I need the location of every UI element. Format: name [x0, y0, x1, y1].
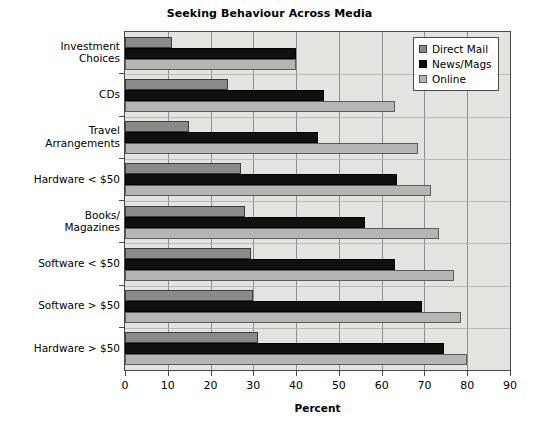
- bar-news-mags-7: [125, 343, 444, 354]
- legend-item-online[interactable]: Online: [419, 71, 492, 86]
- x-axis-tick-label-8: 80: [447, 379, 487, 392]
- x-axis-tick-label-0: 0: [105, 379, 145, 392]
- x-axis-tick-8: [467, 371, 468, 376]
- y-axis-tick-7: [119, 327, 124, 328]
- gridline-horizontal: [125, 159, 510, 160]
- bar-online-1: [125, 101, 395, 112]
- bar-direct-mail-0: [125, 37, 172, 48]
- legend-swatch-icon: [419, 60, 427, 68]
- bar-news-mags-5: [125, 259, 395, 270]
- x-axis-title: Percent: [124, 402, 511, 414]
- y-axis-label-0: Investment Choices: [2, 40, 120, 65]
- y-axis-label-3: Hardware < $50: [2, 173, 120, 186]
- bar-news-mags-1: [125, 90, 324, 101]
- y-axis-tick-4: [119, 200, 124, 201]
- x-axis-tick-label-2: 20: [191, 379, 231, 392]
- legend-item-news-mags[interactable]: News/Mags: [419, 56, 492, 71]
- x-axis-tick-label-5: 50: [319, 379, 359, 392]
- y-axis-tick-2: [119, 116, 124, 117]
- bar-online-0: [125, 59, 296, 70]
- legend-label: Direct Mail: [432, 43, 488, 55]
- x-axis-tick-label-7: 70: [404, 379, 444, 392]
- gridline-horizontal: [125, 117, 510, 118]
- bar-direct-mail-5: [125, 248, 251, 259]
- x-axis-tick-9: [510, 371, 511, 376]
- x-axis-tick-1: [168, 371, 169, 376]
- bar-news-mags-0: [125, 48, 296, 59]
- y-axis-label-4: Books/ Magazines: [2, 209, 120, 234]
- bar-news-mags-2: [125, 132, 318, 143]
- y-axis-tick-1: [119, 73, 124, 74]
- y-axis-label-2: Travel Arrangements: [2, 124, 120, 149]
- legend-label: News/Mags: [432, 58, 492, 70]
- gridline-horizontal: [125, 243, 510, 244]
- chart-container: Seeking Behaviour Across Media Investmen…: [0, 0, 539, 437]
- bar-direct-mail-7: [125, 332, 258, 343]
- bar-news-mags-3: [125, 174, 397, 185]
- x-axis-tick-label-4: 40: [276, 379, 316, 392]
- y-axis-label-6: Software > $50: [2, 299, 120, 312]
- x-axis-tick-6: [382, 371, 383, 376]
- chart-legend: Direct MailNews/MagsOnline: [413, 37, 499, 91]
- bar-direct-mail-4: [125, 206, 245, 217]
- bar-online-2: [125, 143, 418, 154]
- x-axis-tick-label-6: 60: [362, 379, 402, 392]
- bar-direct-mail-1: [125, 79, 228, 90]
- x-axis-tick-5: [339, 371, 340, 376]
- y-axis-label-7: Hardware > $50: [2, 342, 120, 355]
- bar-online-6: [125, 312, 461, 323]
- gridline-horizontal: [125, 328, 510, 329]
- bar-direct-mail-2: [125, 121, 189, 132]
- legend-swatch-icon: [419, 75, 427, 83]
- x-axis-tick-label-1: 10: [148, 379, 188, 392]
- gridline-vertical: [510, 32, 511, 370]
- y-axis-tick-5: [119, 242, 124, 243]
- y-axis-category-labels: Investment ChoicesCDsTravel Arrangements…: [0, 31, 120, 371]
- y-axis-label-5: Software < $50: [2, 257, 120, 270]
- bar-online-3: [125, 185, 431, 196]
- x-axis-tick-label-9: 90: [490, 379, 530, 392]
- x-axis-tick-0: [125, 371, 126, 376]
- gridline-horizontal: [125, 201, 510, 202]
- y-axis-label-1: CDs: [2, 88, 120, 101]
- chart-title: Seeking Behaviour Across Media: [0, 7, 539, 20]
- legend-item-direct-mail[interactable]: Direct Mail: [419, 41, 492, 56]
- y-axis-tick-3: [119, 158, 124, 159]
- bar-news-mags-6: [125, 301, 422, 312]
- legend-swatch-icon: [419, 45, 427, 53]
- bar-direct-mail-3: [125, 163, 241, 174]
- bar-online-5: [125, 270, 454, 281]
- x-axis-tick-2: [211, 371, 212, 376]
- x-axis-tick-label-3: 30: [233, 379, 273, 392]
- gridline-horizontal: [125, 286, 510, 287]
- y-axis-tick-6: [119, 285, 124, 286]
- x-axis-tick-7: [424, 371, 425, 376]
- bar-online-7: [125, 354, 467, 365]
- bar-online-4: [125, 228, 439, 239]
- x-axis-tick-4: [296, 371, 297, 376]
- legend-label: Online: [432, 73, 466, 85]
- bar-direct-mail-6: [125, 290, 253, 301]
- x-axis-tick-3: [253, 371, 254, 376]
- bar-news-mags-4: [125, 217, 365, 228]
